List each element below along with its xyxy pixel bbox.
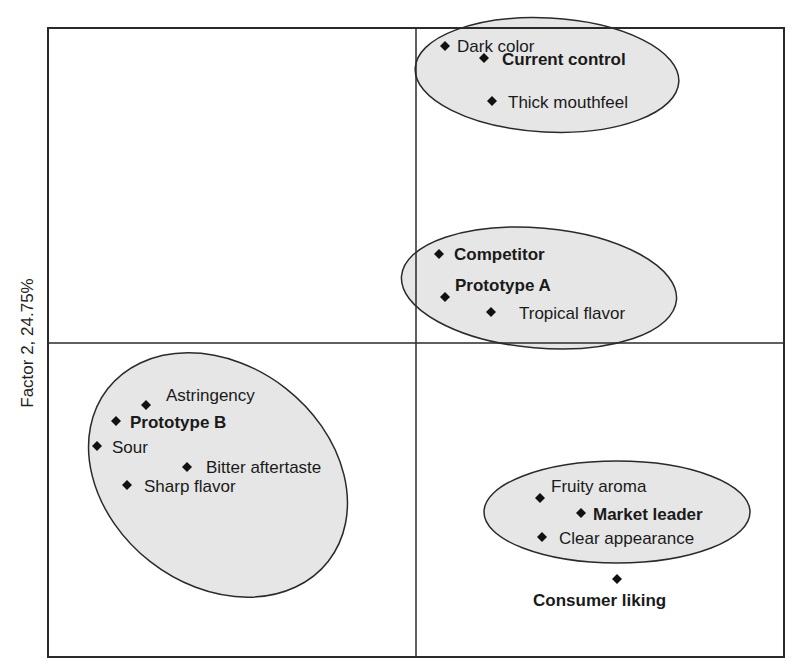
point-label: Bitter aftertaste — [206, 458, 321, 477]
point-consumer-liking: Consumer liking — [533, 574, 666, 610]
point-thick-mouthfeel: Thick mouthfeel — [487, 93, 628, 112]
point-label: Market leader — [593, 505, 703, 524]
point-label: Prototype A — [455, 276, 551, 295]
y-axis-label: Factor 2, 24.75% — [18, 278, 38, 407]
point-market-leader: Market leader — [576, 505, 703, 524]
point-label: Thick mouthfeel — [508, 93, 628, 112]
point-label: Sour — [112, 438, 148, 457]
point-label: Consumer liking — [533, 591, 666, 610]
diamond-marker-icon — [612, 574, 622, 584]
point-label: Tropical flavor — [519, 304, 625, 323]
cluster-top-ellipse — [412, 11, 682, 139]
point-label: Sharp flavor — [144, 477, 236, 496]
point-label: Astringency — [166, 386, 255, 405]
cluster-ellipses — [40, 11, 750, 648]
point-label: Competitor — [454, 245, 545, 264]
point-label: Prototype B — [130, 413, 226, 432]
point-label: Clear appearance — [559, 529, 694, 548]
point-label: Current control — [502, 50, 626, 69]
chart-canvas: Dark colorCurrent controlThick mouthfeel… — [0, 0, 798, 664]
point-clear-appearance: Clear appearance — [537, 529, 694, 548]
point-label: Fruity aroma — [551, 477, 647, 496]
